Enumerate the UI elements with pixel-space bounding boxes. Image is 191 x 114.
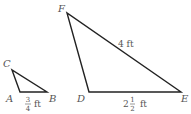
unit-label: ft [140, 99, 147, 109]
mixed-number-whole: 2 [123, 99, 129, 109]
vertex-label-f: F [57, 3, 66, 14]
side-fe-measurement: 4 ft [118, 39, 134, 49]
vertex-label-b: B [48, 93, 56, 104]
side-de-measurement: 2 1 2 ft [123, 96, 147, 113]
vertex-label-e: E [180, 93, 189, 104]
unit-label: ft [34, 99, 41, 109]
fraction-denominator: 4 [26, 105, 31, 113]
small-triangle: C A B 3 4 ft [3, 58, 56, 113]
vertex-label-d: D [76, 93, 85, 104]
triangles-diagram: C A B 3 4 ft F D E 4 ft 2 1 2 ft [0, 0, 191, 114]
vertex-label-a: A [5, 93, 13, 104]
large-triangle: F D E 4 ft 2 1 2 ft [57, 3, 189, 113]
triangle-abc [12, 70, 47, 92]
triangle-def [67, 13, 181, 92]
vertex-label-c: C [3, 58, 11, 69]
fraction-numerator: 1 [130, 96, 134, 104]
fraction-denominator: 2 [130, 105, 134, 113]
side-ab-measurement: 3 4 ft [25, 96, 41, 113]
fraction-numerator: 3 [26, 96, 30, 104]
